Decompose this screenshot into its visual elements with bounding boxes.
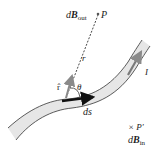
point-p-dot — [97, 13, 100, 16]
theta-label: θ — [77, 83, 81, 92]
r-label: r — [82, 54, 86, 63]
r-hat-label: r̂ — [57, 83, 60, 92]
r-hat-arrow — [66, 76, 72, 98]
dB-in-label: dBin — [128, 135, 145, 147]
point-p-prime-label: × P′ — [128, 123, 144, 132]
dB-out-label: dBout — [66, 10, 87, 22]
ds-label: ds — [83, 107, 92, 117]
current-label: I — [145, 68, 148, 77]
point-p-label: P — [101, 10, 107, 20]
biot-savart-diagram — [0, 0, 160, 156]
